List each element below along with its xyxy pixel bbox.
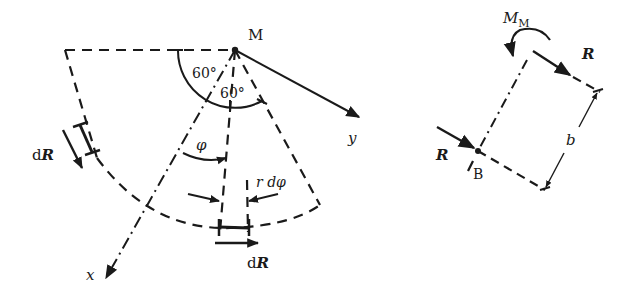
- dim-tick-top: [593, 89, 603, 92]
- label-moment-symbol: M: [502, 9, 519, 27]
- label-moment-subscript: M: [518, 17, 529, 30]
- label-moment: MM: [502, 9, 530, 30]
- rdphi-arrow-left: [188, 194, 219, 201]
- dim-b-lower-arrow: [546, 153, 564, 187]
- point-B: [475, 148, 481, 154]
- label-dR-left: dR: [32, 146, 54, 164]
- label-axis-y: y: [347, 129, 357, 147]
- force-R-left-arrow: [437, 127, 474, 148]
- phi-arrow: [183, 153, 226, 160]
- arm-dashdot: [478, 60, 527, 151]
- label-angle-outer: 60°: [192, 65, 217, 81]
- bottom-dashed-edge: [478, 151, 545, 190]
- label-dR-bottom-symbol: R: [256, 254, 269, 272]
- label-phi: φ: [196, 136, 207, 154]
- label-b: b: [566, 131, 576, 149]
- force-R-top-arrow: [533, 51, 570, 75]
- rdphi-arrow-right: [249, 194, 278, 201]
- label-dR-left-symbol: R: [41, 146, 54, 164]
- label-M: M: [248, 26, 263, 44]
- label-rdphi: r dφ: [256, 174, 286, 190]
- label-dR-bottom: dR: [247, 254, 269, 272]
- label-R-top: R: [581, 45, 594, 63]
- label-dR-bottom-prefix: d: [247, 254, 257, 272]
- top-dashed-edge: [573, 77, 600, 92]
- label-axis-x: x: [86, 266, 95, 284]
- left-diagram: [63, 50, 359, 278]
- dim-b-upper-arrow: [579, 93, 597, 127]
- label-angle-inner: 60°: [220, 85, 245, 101]
- label-R-left: R: [435, 146, 448, 164]
- dR-left-arrow: [63, 130, 82, 168]
- central-radius-dashed: [220, 50, 235, 232]
- moment-arrow: [512, 29, 550, 56]
- mechanics-diagram: M 60° 60° φ r dφ x y dR dR MM R R B b: [0, 0, 639, 298]
- label-dR-left-prefix: d: [32, 146, 42, 164]
- outer-arc-dashed: [97, 158, 320, 228]
- bottom-element-bar: [219, 227, 249, 228]
- point-M: [232, 47, 238, 53]
- label-B: B: [473, 166, 483, 182]
- right-diagram: [437, 29, 603, 190]
